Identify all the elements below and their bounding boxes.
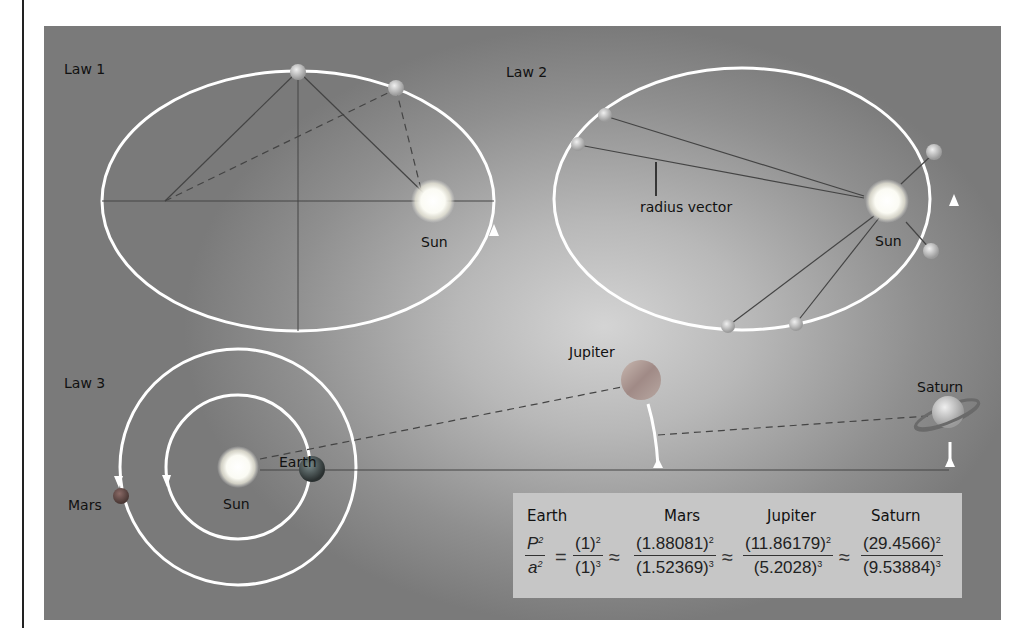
radius-vector-label: radius vector: [640, 199, 732, 215]
exponent: 3: [596, 559, 601, 569]
jupiter-period: (11.86179): [745, 534, 826, 553]
law2-planet-icon: [789, 317, 803, 331]
approx-sign: ≈: [722, 546, 733, 569]
formula-term-jupiter: (11.86179)2 (5.2028)3: [743, 533, 833, 580]
jupiter-icon: [621, 360, 661, 400]
kepler-laws-figure: Law 1 Sun Law 2 radius vector Sun: [44, 26, 1001, 620]
law1-focus-line-a: [165, 71, 298, 201]
law3-dashed-line-saturn: [658, 416, 928, 435]
orbit-arrow-icon: [653, 458, 663, 468]
exponent: 3: [936, 559, 941, 569]
jupiter-semimajor-axis: (5.2028): [754, 558, 817, 577]
law3-label: Law 3: [64, 375, 105, 391]
exponent: 2: [596, 535, 601, 545]
law2-planet-icon: [721, 319, 735, 333]
exponent: 3: [817, 559, 822, 569]
approx-sign: ≈: [609, 546, 620, 569]
formula-lhs: P2 a2: [525, 533, 545, 580]
law2-radius-line: [728, 216, 874, 326]
orbit-arrow-icon: [945, 456, 955, 467]
saturn-icon: [912, 394, 982, 436]
sun-icon: [411, 179, 455, 223]
jupiter-label: Jupiter: [568, 344, 615, 360]
approx-sign: ≈: [839, 546, 850, 569]
orbit-arrow-icon: [949, 194, 959, 206]
law2-radius-line: [605, 116, 864, 196]
law1-planet-icon: [290, 64, 306, 80]
law3-sun-label: Sun: [223, 496, 250, 512]
saturn-semimajor-axis: (9.53884): [863, 558, 936, 577]
lhs-den-exponent: 2: [537, 559, 542, 569]
exponent: 3: [709, 559, 714, 569]
law2-diagram: Law 2 radius vector Sun: [506, 64, 959, 333]
formula-header-jupiter: Jupiter: [767, 507, 816, 525]
mars-semimajor-axis: (1.52369): [636, 558, 709, 577]
formula-term-earth: (1)2 (1)3: [573, 533, 603, 580]
law1-diagram: Law 1 Sun: [64, 61, 499, 331]
sun-icon: [865, 179, 909, 223]
earth-semimajor-axis: (1): [575, 558, 596, 577]
lhs-denominator: a: [528, 558, 537, 577]
earth-label: Earth: [279, 454, 317, 470]
formula-header-earth: Earth: [527, 507, 567, 525]
formula-term-saturn: (29.4566)2 (9.53884)3: [861, 533, 943, 580]
exponent: 2: [709, 535, 714, 545]
law1-dashed-line-a: [165, 89, 396, 201]
saturn-label: Saturn: [917, 379, 963, 395]
law3-dashed-line-jupiter: [260, 387, 622, 459]
law2-radius-line: [579, 145, 864, 198]
law2-planet-icon: [598, 108, 612, 122]
law2-planet-icon: [571, 137, 585, 151]
exponent: 2: [826, 535, 831, 545]
formula-header-mars: Mars: [664, 507, 700, 525]
law1-focus-line-b: [298, 71, 432, 201]
formula-planet-headers: Earth Mars Jupiter Saturn: [513, 507, 962, 527]
law2-sun-label: Sun: [875, 233, 902, 249]
law1-label: Law 1: [64, 61, 105, 77]
law1-planet-icon: [388, 80, 404, 96]
mars-label: Mars: [68, 497, 102, 513]
law2-radius-line: [797, 218, 879, 322]
sun-icon: [217, 446, 259, 488]
law2-planet-icon: [923, 243, 939, 259]
formula-term-mars: (1.88081)2 (1.52369)3: [634, 533, 716, 580]
equals-sign: =: [555, 546, 567, 569]
page-margin-rule: [22, 0, 24, 628]
jupiter-path: [648, 404, 658, 466]
saturn-period: (29.4566): [863, 534, 936, 553]
earth-period: (1): [575, 534, 596, 553]
law2-label: Law 2: [506, 64, 547, 80]
mars-icon: [113, 488, 129, 504]
formula-equation: P2 a2 = (1)2 (1)3 ≈ (1.88081)2 (1.52369)…: [513, 533, 962, 593]
mars-period: (1.88081): [636, 534, 709, 553]
law1-sun-label: Sun: [421, 234, 448, 250]
kepler-third-law-formula: Earth Mars Jupiter Saturn P2 a2 = (1)2 (…: [513, 493, 962, 598]
exponent: 2: [936, 535, 941, 545]
law2-planet-icon: [926, 144, 942, 160]
formula-header-saturn: Saturn: [871, 507, 921, 525]
lhs-numerator: P: [527, 534, 538, 553]
lhs-num-exponent: 2: [538, 535, 543, 545]
